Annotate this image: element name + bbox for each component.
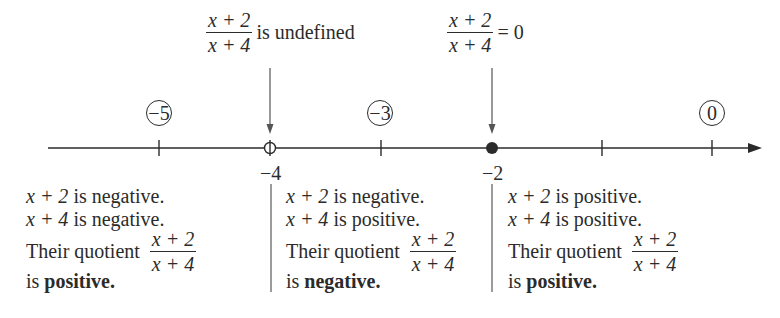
test-point-minus-5: −5 <box>146 100 172 126</box>
annotation-undefined: x + 2 x + 4 is undefined <box>206 10 355 55</box>
numerator: x + 2 <box>410 229 456 252</box>
fraction: x + 2 x + 4 <box>447 10 493 55</box>
expression: x + 2 <box>508 185 550 208</box>
quotient-label: Their quotient <box>286 240 400 263</box>
line-3: Their quotient x + 2 x + 4 <box>286 229 456 274</box>
sign-text: is negative. <box>328 185 424 208</box>
interval-left: x + 2 is negative. x + 4 is negative. Th… <box>26 185 196 293</box>
sign-text: is negative. <box>68 185 164 208</box>
denominator: x + 4 <box>632 252 678 274</box>
arrow-down-icon <box>489 124 496 134</box>
axis-arrow-icon <box>748 143 762 153</box>
result-prefix: is <box>26 270 44 293</box>
line-3: Their quotient x + 2 x + 4 <box>508 229 678 274</box>
sign-text: is positive. <box>550 208 642 231</box>
closed-dot-icon <box>486 142 498 154</box>
quotient-label: Their quotient <box>508 240 622 263</box>
result-sign: negative. <box>304 270 380 293</box>
arrow-down-icon <box>267 124 274 134</box>
numerator: x + 2 <box>150 229 196 252</box>
line-3: Their quotient x + 2 x + 4 <box>26 229 196 274</box>
expression: x + 4 <box>286 208 328 231</box>
result-prefix: is <box>508 270 526 293</box>
critical-label-minus-4: −4 <box>260 163 281 183</box>
sign-text: is negative. <box>68 208 164 231</box>
expression: x + 4 <box>26 208 68 231</box>
denominator: x + 4 <box>206 33 252 55</box>
sign-text: is positive. <box>550 185 642 208</box>
critical-label-minus-2: −2 <box>482 163 503 183</box>
result-sign: positive. <box>44 270 115 293</box>
numerator: x + 2 <box>447 10 493 33</box>
result-prefix: is <box>286 270 304 293</box>
interval-right: x + 2 is positive. x + 4 is positive. Th… <box>508 185 678 293</box>
interval-middle: x + 2 is negative. x + 4 is positive. Th… <box>286 185 456 293</box>
line-1: x + 2 is negative. <box>286 185 456 208</box>
fraction: x + 2 x + 4 <box>632 229 678 274</box>
test-point-minus-3: −3 <box>367 100 393 126</box>
fraction: x + 2 x + 4 <box>410 229 456 274</box>
annotation-text: is undefined <box>256 21 354 44</box>
result-sign: positive. <box>526 270 597 293</box>
line-1: x + 2 is positive. <box>508 185 678 208</box>
annotation-zero: x + 2 x + 4 = 0 <box>447 10 524 55</box>
fraction: x + 2 x + 4 <box>150 229 196 274</box>
numerator: x + 2 <box>632 229 678 252</box>
fraction: x + 2 x + 4 <box>206 10 252 55</box>
quotient-label: Their quotient <box>26 240 140 263</box>
denominator: x + 4 <box>447 33 493 55</box>
expression: x + 2 <box>286 185 328 208</box>
expression: x + 2 <box>26 185 68 208</box>
line-1: x + 2 is negative. <box>26 185 196 208</box>
denominator: x + 4 <box>410 252 456 274</box>
numerator: x + 2 <box>206 10 252 33</box>
sign-text: is positive. <box>328 208 420 231</box>
annotation-text: = 0 <box>497 21 523 44</box>
test-point-0: 0 <box>699 100 725 126</box>
expression: x + 4 <box>508 208 550 231</box>
denominator: x + 4 <box>150 252 196 274</box>
